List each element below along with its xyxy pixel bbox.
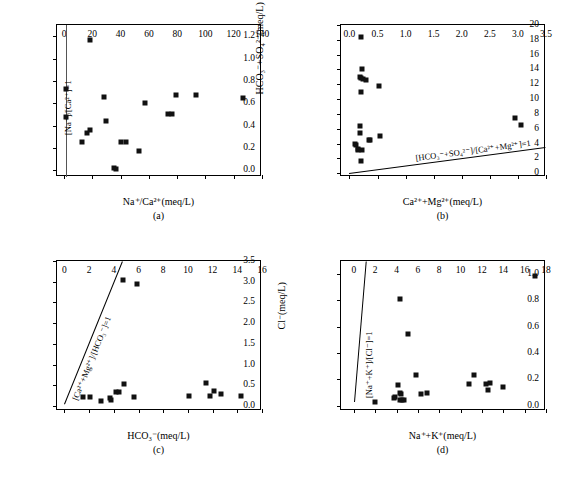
y-tick-label-c: 3.0: [243, 277, 255, 287]
x-tick-label-d: 2: [373, 266, 378, 276]
y-tick-a: [53, 103, 57, 104]
data-point: [472, 373, 477, 378]
plot-area-c: 02468101214160.00.51.01.52.02.53.03.5[Ca…: [56, 260, 261, 410]
x-tick-c: [262, 409, 263, 413]
y-tick-d: [337, 327, 341, 328]
y-tick-label-d: 0.8: [527, 296, 539, 306]
x-tick-label-d: 12: [477, 266, 487, 276]
x-tick-b: [518, 175, 519, 179]
data-point: [358, 34, 363, 39]
x-tick-label-b: 0.0: [343, 30, 355, 40]
data-point: [98, 398, 103, 403]
y-tick-label-b: 12: [530, 80, 540, 90]
data-point: [377, 134, 382, 139]
x-tick-a: [149, 175, 150, 179]
y-tick-label-b: 2: [534, 154, 539, 164]
y-tick-c: [53, 344, 57, 345]
y-tick-d: [337, 406, 341, 407]
x-tick-label-d: 10: [456, 266, 466, 276]
reference-line-label-c: [Ca²⁺+Mg²⁺]/[HCO₃⁻]=1: [70, 315, 113, 402]
y-tick-label-b: 14: [530, 65, 540, 75]
x-tick-label-d: 14: [499, 266, 509, 276]
x-axis-title-c: HCO₃⁻(meq/L): [127, 430, 189, 441]
data-point: [102, 94, 107, 99]
x-tick-label-b: 1.5: [428, 30, 440, 40]
x-tick-label-b: 1.0: [400, 30, 412, 40]
x-tick-d: [439, 409, 440, 413]
y-tick-label-c: 1.5: [243, 339, 255, 349]
x-tick-a: [234, 175, 235, 179]
x-tick-label-c: 14: [233, 266, 243, 276]
y-axis-title-d: Cl⁻(meq/L): [276, 282, 287, 329]
data-point: [173, 93, 178, 98]
x-axis-title-a: Na⁺/Ca²⁺(meq/L): [123, 196, 194, 207]
y-tick-a: [53, 81, 57, 82]
y-tick-b: [337, 40, 341, 41]
data-point: [425, 390, 430, 395]
y-tick-a: [53, 59, 57, 60]
y-tick-label-b: 16: [530, 50, 540, 60]
y-tick-label-b: 6: [534, 124, 539, 134]
x-tick-b: [378, 175, 379, 179]
data-point: [87, 37, 92, 42]
data-point: [486, 387, 491, 392]
x-tick-d: [418, 409, 419, 413]
y-tick-label-a: 0.4: [243, 121, 255, 131]
data-point: [501, 385, 506, 390]
x-axis-title-d: Na⁺+K⁺(meq/L): [409, 430, 476, 441]
data-point: [208, 393, 213, 398]
y-tick-label-c: 3.5: [243, 256, 255, 266]
y-tick-label-c: 0.5: [243, 381, 255, 391]
data-point: [64, 86, 69, 91]
data-point: [137, 149, 142, 154]
data-point: [419, 391, 424, 396]
x-tick-a: [92, 175, 93, 179]
data-point: [367, 138, 372, 143]
x-tick-d: [461, 409, 462, 413]
y-tick-b: [337, 25, 341, 26]
x-tick-a: [177, 175, 178, 179]
x-tick-b: [349, 175, 350, 179]
x-tick-label-c: 6: [136, 266, 141, 276]
x-tick-a: [262, 175, 263, 179]
data-point: [103, 119, 108, 124]
x-tick-d: [375, 409, 376, 413]
x-tick-d: [503, 409, 504, 413]
figure-panel-grid: 0204060801001201400.00.20.40.60.81.01.2[…: [0, 8, 569, 490]
page-text-top-fragment: [8, 0, 561, 5]
x-tick-b: [462, 175, 463, 179]
x-tick-b: [434, 175, 435, 179]
y-tick-c: [53, 365, 57, 366]
y-tick-label-b: 18: [530, 35, 540, 45]
y-tick-label-a: 0.0: [243, 166, 255, 176]
x-tick-label-d: 6: [416, 266, 421, 276]
panel-caption-d: (d): [437, 444, 449, 455]
x-tick-b: [406, 175, 407, 179]
panel-caption-a: (a): [153, 210, 164, 221]
data-point: [377, 84, 382, 89]
y-tick-b: [337, 158, 341, 159]
y-tick-label-c: 0.0: [243, 401, 255, 411]
data-point: [373, 399, 378, 404]
data-point: [358, 123, 363, 128]
plot-area-b: 0.00.51.01.52.02.53.03.50246810121416182…: [340, 24, 545, 176]
y-axis-title-b: HCO₃⁻+SO₄²⁻(meq/L): [254, 2, 265, 94]
data-point: [358, 89, 363, 94]
y-tick-a: [53, 170, 57, 171]
y-tick-b: [337, 69, 341, 70]
y-tick-label-d: 0.2: [527, 375, 539, 385]
data-point: [121, 382, 126, 387]
data-point: [211, 389, 216, 394]
y-tick-c: [53, 302, 57, 303]
y-tick-b: [337, 55, 341, 56]
y-tick-label-c: 2.5: [243, 298, 255, 308]
y-tick-a: [53, 126, 57, 127]
x-tick-c: [163, 409, 164, 413]
x-tick-a: [64, 175, 65, 179]
x-tick-label-a: 80: [172, 30, 182, 40]
plot-area-d: 0246810121416180.00.20.40.60.81.0[Na⁺+K⁺…: [340, 260, 545, 410]
y-tick-d: [337, 353, 341, 354]
data-point: [143, 101, 148, 106]
x-tick-label-c: 12: [208, 266, 218, 276]
data-point: [121, 277, 126, 282]
